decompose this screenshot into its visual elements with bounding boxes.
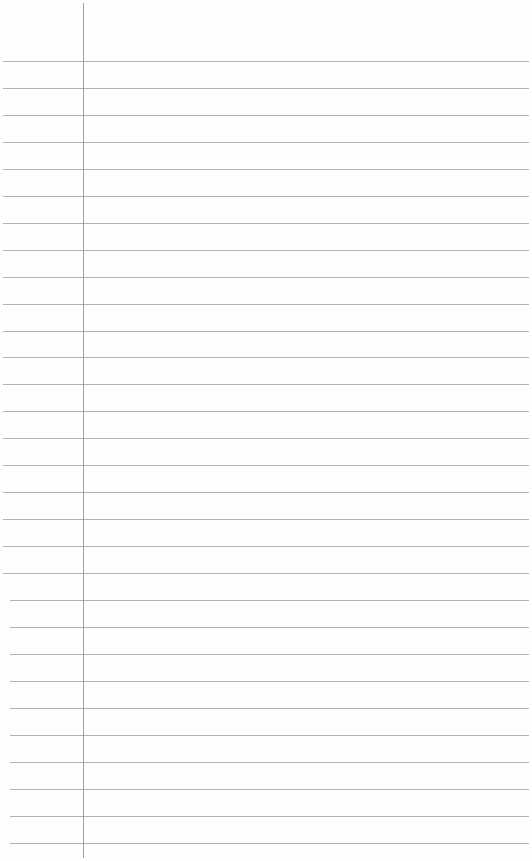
ruled-line bbox=[3, 492, 529, 493]
ruled-line bbox=[3, 304, 529, 305]
ruled-line bbox=[3, 196, 529, 197]
ruled-line bbox=[3, 331, 529, 332]
ruled-line bbox=[3, 519, 529, 520]
ruled-line bbox=[3, 142, 529, 143]
ruled-line bbox=[10, 789, 529, 790]
ruled-line bbox=[3, 88, 529, 89]
ruled-line bbox=[3, 61, 529, 62]
ruled-line bbox=[10, 735, 529, 736]
ruled-line bbox=[3, 573, 529, 574]
ruled-line bbox=[10, 843, 529, 844]
ruled-line bbox=[10, 816, 529, 817]
ruled-line bbox=[10, 654, 529, 655]
ruled-line bbox=[3, 277, 529, 278]
ruled-line bbox=[3, 115, 529, 116]
ruled-line bbox=[3, 411, 529, 412]
ruled-line bbox=[3, 223, 529, 224]
ruled-line bbox=[3, 465, 529, 466]
ruled-line bbox=[3, 169, 529, 170]
notepad-page bbox=[0, 0, 532, 861]
ruled-line bbox=[3, 384, 529, 385]
ruled-line bbox=[10, 681, 529, 682]
ruled-line bbox=[3, 357, 529, 358]
ruled-line bbox=[3, 438, 529, 439]
ruled-line bbox=[10, 708, 529, 709]
ruled-line bbox=[10, 762, 529, 763]
ruled-line bbox=[3, 546, 529, 547]
ruled-line bbox=[10, 627, 529, 628]
ruled-line bbox=[10, 600, 529, 601]
ruled-line bbox=[3, 250, 529, 251]
margin-line bbox=[83, 3, 84, 858]
